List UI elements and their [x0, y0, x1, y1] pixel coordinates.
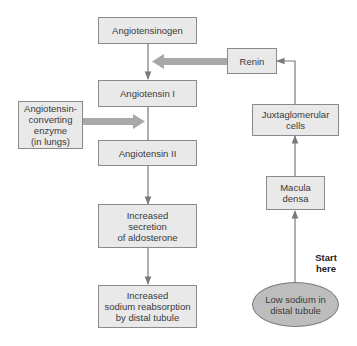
node-juxtaglomerular-cells: Juxtaglomerular cells [252, 104, 339, 136]
node-low-sodium-distal-tubule: Low sodium in distal tubule [252, 282, 339, 327]
node-increased-sodium-reabsorption: Increased sodium reabsorption by distal … [98, 285, 197, 328]
node-macula-densa: Macula densa [266, 176, 325, 210]
node-increased-aldosterone-secretion: Increased secretion of aldosterone [98, 204, 197, 248]
node-angiotensinogen: Angiotensinogen [98, 17, 197, 44]
node-angiotensin-2: Angiotensin II [98, 140, 197, 166]
thick-arrow-renin [152, 54, 227, 69]
node-angiotensin-converting-enzyme: Angiotensin- converting enzyme (in lungs… [18, 101, 83, 149]
arrow-juxtaglomerular-to-renin [277, 61, 295, 104]
node-renin: Renin [227, 48, 277, 74]
node-angiotensin-1: Angiotensin I [98, 80, 197, 107]
thick-arrow-ace [82, 114, 145, 129]
start-here-label: Start here [314, 252, 338, 274]
